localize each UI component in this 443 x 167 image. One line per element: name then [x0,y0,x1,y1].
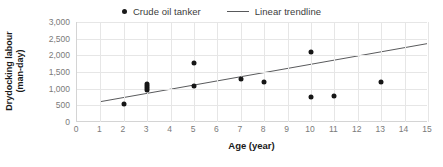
x-axis-tick-label: 4 [167,124,172,134]
gridline-vertical [311,22,312,122]
legend-item-crude-oil-tanker: Crude oil tanker [122,6,201,17]
x-axis-tick-label: 11 [329,124,338,134]
gridline-vertical [171,22,172,122]
x-axis-tick-label: 14 [399,124,408,134]
y-axis-title: Drydocking labour (man-day) [2,18,28,124]
data-point [309,50,314,55]
x-axis-tick-label: 5 [191,124,196,134]
x-axis-tick-label: 9 [284,124,289,134]
gridline-horizontal [77,39,427,40]
gridline-horizontal [77,55,427,56]
plot-area [76,22,427,122]
gridline-vertical [147,22,148,122]
gridline-horizontal [77,89,427,90]
y-axis-tick-label: 500 [56,100,70,110]
gridline-vertical [428,22,429,122]
data-point [332,94,337,99]
gridline-vertical [264,22,265,122]
gridline-horizontal [77,72,427,73]
x-axis-tick-label: 15 [422,124,431,134]
legend-label-crude-oil-tanker: Crude oil tanker [133,6,201,17]
gridline-vertical [194,22,195,122]
y-axis-tick-label: 2,500 [49,34,70,44]
y-axis-tick-label: 2,000 [49,50,70,60]
legend-label-linear-trendline: Linear trendline [255,6,321,17]
x-axis-tick-label: 13 [375,124,384,134]
dot-marker-icon [122,9,127,14]
gridline-vertical [241,22,242,122]
gridline-vertical [358,22,359,122]
data-point [379,80,384,85]
gridline-vertical [334,22,335,122]
scatter-chart: Crude oil tanker Linear trendline Drydoc… [0,0,443,167]
x-axis-tick-label: 6 [214,124,219,134]
gridline-vertical [100,22,101,122]
y-axis-title-line1: Drydocking labour [4,31,15,111]
data-point [192,60,197,65]
x-axis-tick-label: 3 [144,124,149,134]
x-axis-tick-label: 12 [352,124,361,134]
y-axis-tick-label: 1,000 [49,84,70,94]
data-point [262,80,267,85]
x-axis-tick-label: 8 [261,124,266,134]
x-axis-tick-label: 0 [74,124,79,134]
data-point [192,83,197,88]
x-axis-tick-label: 2 [120,124,125,134]
y-axis-tick-label: 0 [65,117,70,127]
x-axis-tick-label: 7 [237,124,242,134]
data-point [121,102,126,107]
x-axis-title: Age (year) [76,140,427,151]
data-point [309,95,314,100]
gridline-vertical [288,22,289,122]
gridline-vertical [217,22,218,122]
data-point [238,77,243,82]
x-axis-tick-label: 1 [97,124,102,134]
y-axis-tick-labels: 05001,0001,5002,0002,5003,000 [28,18,74,124]
x-axis-tick-label: 10 [305,124,314,134]
legend-item-linear-trendline: Linear trendline [227,6,321,17]
gridline-horizontal [77,22,427,23]
gridline-vertical [381,22,382,122]
data-point [145,81,150,86]
y-axis-tick-label: 3,000 [49,17,70,27]
gridline-vertical [124,22,125,122]
gridline-horizontal [77,105,427,106]
gridline-vertical [405,22,406,122]
line-marker-icon [227,11,249,12]
y-axis-title-line2: (man-day) [15,31,26,111]
y-axis-tick-label: 1,500 [49,67,70,77]
x-axis-tick-labels: 0123456789101112131415 [76,124,427,138]
